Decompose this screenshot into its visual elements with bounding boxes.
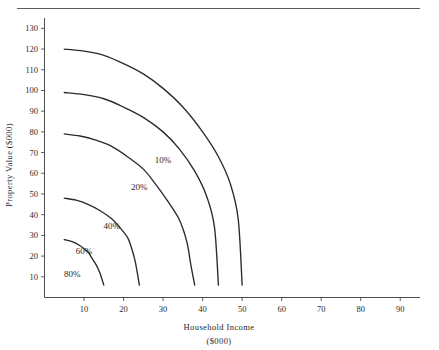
x-tick-label: 40 — [198, 304, 207, 314]
y-tick-label: 100 — [25, 85, 38, 95]
contour-label-60pct: 60% — [76, 246, 93, 256]
x-tick-label: 80 — [356, 304, 365, 314]
contour-label-80pct: 80% — [64, 269, 81, 279]
y-tick-label: 90 — [30, 106, 39, 116]
y-axis-ticks — [41, 28, 45, 276]
y-tick-label: 60 — [30, 168, 39, 178]
x-tick-label: 20 — [119, 304, 128, 314]
chart-canvas: 102030405060708090100110120130 102030405… — [0, 0, 439, 350]
contour-curve-labels: 10%20%40%60%80% — [64, 155, 172, 279]
y-axis-title: Property Value ($000) — [4, 123, 14, 207]
y-tick-label: 80 — [30, 127, 39, 137]
y-tick-label: 110 — [26, 65, 38, 75]
contour-label-40pct: 40% — [103, 221, 120, 231]
y-tick-label: 40 — [30, 210, 39, 220]
x-tick-label: 70 — [317, 304, 326, 314]
x-tick-label: 50 — [238, 304, 247, 314]
x-axis-title: Household Income — [184, 322, 255, 332]
y-tick-label: 30 — [30, 230, 39, 240]
x-tick-label: 90 — [396, 304, 405, 314]
affordability-contour-figure: 102030405060708090100110120130 102030405… — [0, 0, 439, 350]
y-tick-label: 120 — [25, 44, 38, 54]
y-tick-label: 130 — [25, 23, 38, 33]
x-axis-tick-labels: 102030405060708090 — [80, 304, 405, 314]
x-axis-units-label: ($000) — [206, 336, 231, 346]
y-tick-label: 50 — [30, 189, 39, 199]
contour-label-10pct: 10% — [155, 155, 172, 165]
y-tick-label: 20 — [30, 251, 39, 261]
x-tick-label: 60 — [277, 304, 286, 314]
x-tick-label: 30 — [159, 304, 168, 314]
x-tick-label: 10 — [80, 304, 89, 314]
y-axis-tick-labels: 102030405060708090100110120130 — [25, 23, 38, 281]
contour-curve-40pct — [64, 134, 194, 285]
y-tick-label: 70 — [30, 148, 39, 158]
x-axis-ticks — [84, 298, 400, 302]
y-tick-label: 10 — [30, 272, 39, 282]
contour-label-20pct: 20% — [131, 182, 148, 192]
